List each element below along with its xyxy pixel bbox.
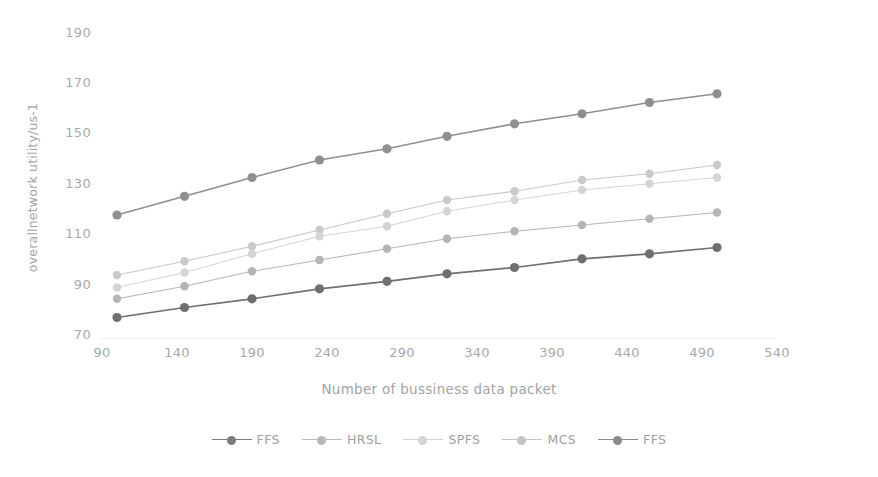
legend-label: HRSL: [347, 432, 382, 447]
data-point: [248, 267, 256, 275]
legend-marker-icon: [598, 434, 638, 446]
data-point: [645, 249, 654, 258]
x-tick-540: 540: [752, 345, 802, 360]
x-tick-140: 140: [152, 345, 202, 360]
data-point: [645, 215, 653, 223]
series-hrsl-1: [113, 161, 721, 279]
data-point: [442, 132, 451, 141]
data-point: [315, 256, 323, 264]
data-point: [383, 245, 391, 253]
data-point: [315, 284, 324, 293]
data-point: [112, 313, 121, 322]
y-tick-70: 70: [45, 327, 91, 342]
data-point: [713, 208, 721, 216]
legend-label: FFS: [257, 432, 280, 447]
legend-item-ffs-0[interactable]: FFS: [212, 432, 280, 447]
data-point: [712, 89, 721, 98]
series-line: [117, 178, 717, 288]
data-point: [578, 221, 586, 229]
data-point: [712, 243, 721, 252]
legend-item-mcs-3[interactable]: MCS: [502, 432, 576, 447]
y-tick-110: 110: [45, 226, 91, 241]
x-axis-baseline: [100, 338, 776, 339]
data-point: [383, 222, 391, 230]
legend-label: MCS: [547, 432, 576, 447]
y-tick-170: 170: [45, 75, 91, 90]
y-tick-90: 90: [45, 277, 91, 292]
chart-figure: overallnetwork utility/us-1 190 170 150 …: [0, 0, 878, 477]
data-point: [510, 119, 519, 128]
legend-marker-icon: [502, 434, 542, 446]
x-tick-290: 290: [377, 345, 427, 360]
legend-item-ffs-4[interactable]: FFS: [598, 432, 666, 447]
data-point: [510, 187, 518, 195]
data-point: [315, 155, 324, 164]
x-tick-340: 340: [452, 345, 502, 360]
data-point: [113, 283, 121, 291]
data-point: [383, 210, 391, 218]
series-spfs-2: [113, 173, 721, 291]
x-tick-240: 240: [302, 345, 352, 360]
data-point: [510, 196, 518, 204]
data-point: [713, 161, 721, 169]
data-point: [247, 294, 256, 303]
data-point: [645, 180, 653, 188]
data-point: [645, 170, 653, 178]
legend-label: FFS: [643, 432, 666, 447]
data-point: [180, 303, 189, 312]
data-point: [578, 176, 586, 184]
series-line: [117, 165, 717, 275]
data-point: [247, 173, 256, 182]
legend-marker-icon: [212, 434, 252, 446]
data-point: [382, 144, 391, 153]
data-point: [382, 277, 391, 286]
y-axis-title: overallnetwork utility/us-1: [25, 78, 40, 298]
data-point: [113, 295, 121, 303]
data-point: [443, 196, 451, 204]
x-tick-390: 390: [527, 345, 577, 360]
legend-item-hrsl-1[interactable]: HRSL: [302, 432, 382, 447]
data-point: [442, 269, 451, 278]
series-ffs-4: [112, 243, 721, 322]
data-point: [577, 109, 586, 118]
y-tick-150: 150: [45, 125, 91, 140]
y-tick-190: 190: [45, 25, 91, 40]
x-axis-title: Number of bussiness data packet: [0, 381, 878, 397]
data-point: [180, 192, 189, 201]
legend-marker-icon: [302, 434, 342, 446]
series-line: [117, 213, 717, 299]
data-point: [112, 210, 121, 219]
data-point: [645, 98, 654, 107]
data-point: [113, 271, 121, 279]
legend-item-spfs-2[interactable]: SPFS: [403, 432, 480, 447]
data-point: [443, 235, 451, 243]
data-point: [443, 207, 451, 215]
data-point: [577, 254, 586, 263]
x-tick-90: 90: [77, 345, 127, 360]
legend-label: SPFS: [448, 432, 480, 447]
data-point: [510, 227, 518, 235]
series-line: [117, 248, 717, 318]
x-tick-440: 440: [602, 345, 652, 360]
series-ffs-0: [112, 89, 721, 219]
chart-legend: FFSHRSLSPFSMCSFFS: [0, 432, 878, 447]
y-tick-130: 130: [45, 176, 91, 191]
data-point: [713, 173, 721, 181]
series-line: [117, 94, 717, 215]
data-point: [248, 250, 256, 258]
data-point: [248, 242, 256, 250]
series-mcs-3: [113, 208, 721, 303]
legend-marker-icon: [403, 434, 443, 446]
y-axis-title-container: overallnetwork utility/us-1: [22, 80, 42, 300]
x-tick-490: 490: [677, 345, 727, 360]
data-point: [510, 263, 519, 272]
data-point: [315, 232, 323, 240]
data-point: [578, 186, 586, 194]
data-point: [315, 226, 323, 234]
x-tick-190: 190: [227, 345, 277, 360]
data-point: [180, 282, 188, 290]
chart-plot-area: [0, 0, 878, 477]
data-point: [180, 257, 188, 265]
data-point: [180, 268, 188, 276]
